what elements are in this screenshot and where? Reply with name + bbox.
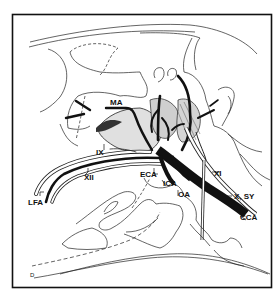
label-oa: OA: [178, 190, 190, 199]
label-eca: ECA: [140, 170, 157, 179]
label-x-sy: X, SY: [234, 192, 255, 201]
anatomical-figure: MA IX XII LFA ECA ICA OA XI X, SY CCA D: [0, 0, 280, 296]
label-leaders: [40, 144, 246, 220]
label-ix: IX: [96, 148, 104, 157]
label-cca: CCA: [240, 213, 258, 222]
label-xii: XII: [84, 173, 94, 182]
label-xi: XI: [214, 169, 222, 178]
label-ica: ICA: [163, 179, 177, 188]
label-ma: MA: [110, 98, 123, 107]
corner-mark: D: [30, 272, 35, 278]
label-lfa: LFA: [28, 198, 43, 207]
